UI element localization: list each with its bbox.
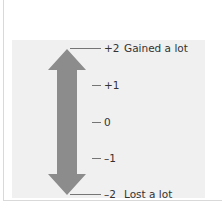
double-arrow-icon	[0, 0, 222, 214]
tick-label-minus2: –2	[104, 188, 116, 200]
double-arrow-shape	[48, 49, 86, 195]
tick-label-plus1: +1	[104, 79, 119, 91]
tick-label-plus2: +2	[104, 42, 119, 54]
tick-label-zero: 0	[104, 116, 111, 128]
tick-description-plus2: Gained a lot	[124, 42, 188, 54]
tick-description-minus2: Lost a lot	[124, 188, 172, 200]
tick-label-minus1: –1	[104, 152, 116, 164]
